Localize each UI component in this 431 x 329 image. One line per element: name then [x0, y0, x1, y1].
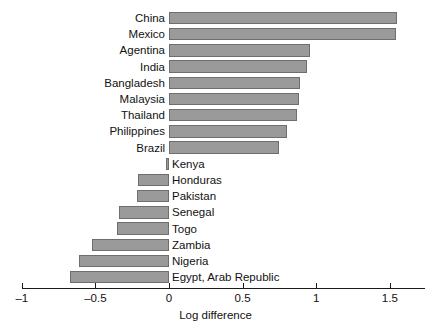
bar-row: Senegal [0, 204, 431, 220]
x-tick-mark [316, 283, 317, 288]
x-tick-mark [390, 283, 391, 288]
category-label: Bangladesh [104, 75, 165, 91]
bar[interactable] [169, 60, 307, 72]
bar-row: Thailand [0, 107, 431, 123]
bar[interactable] [166, 158, 169, 170]
category-label: Thailand [121, 107, 165, 123]
bar[interactable] [169, 109, 297, 121]
bar-row: Zambia [0, 237, 431, 253]
category-label: Brazil [136, 140, 165, 156]
bar[interactable] [169, 141, 279, 153]
bar[interactable] [70, 271, 169, 283]
bar[interactable] [138, 174, 169, 186]
bar-row: India [0, 59, 431, 75]
bar[interactable] [169, 12, 397, 24]
category-label: Pakistan [172, 188, 216, 204]
category-label: Mexico [129, 26, 165, 42]
x-tick-mark [243, 283, 244, 288]
x-tick-mark [169, 283, 170, 288]
bar-row: China [0, 10, 431, 26]
category-label: Togo [172, 221, 197, 237]
bar-row: Bangladesh [0, 75, 431, 91]
x-tick-mark [22, 283, 23, 288]
bar-row: Togo [0, 221, 431, 237]
bar[interactable] [169, 125, 287, 137]
category-label: Kenya [172, 156, 205, 172]
category-label: Agentina [120, 42, 165, 58]
x-tick-mark [95, 283, 96, 288]
category-label: India [140, 59, 165, 75]
category-label: Malaysia [120, 91, 165, 107]
category-label: Nigeria [172, 253, 208, 269]
x-tick-label: –0.5 [84, 292, 106, 304]
bar[interactable] [169, 28, 396, 40]
x-tick-label: 1 [313, 292, 319, 304]
category-label: Zambia [172, 237, 210, 253]
bar-row: Brazil [0, 140, 431, 156]
category-label: Egypt, Arab Republic [172, 269, 279, 285]
bar-row: Mexico [0, 26, 431, 42]
category-label: Senegal [172, 204, 214, 220]
plot-area: ChinaMexicoAgentinaIndiaBangladeshMalays… [0, 0, 431, 283]
category-label: China [135, 10, 165, 26]
bar[interactable] [92, 239, 169, 251]
bar-row: Agentina [0, 42, 431, 58]
bar-row: Philippines [0, 123, 431, 139]
bar-row: Malaysia [0, 91, 431, 107]
x-axis-label: Log difference [0, 309, 431, 321]
bar[interactable] [169, 93, 299, 105]
x-tick-label: 0 [166, 292, 172, 304]
x-tick-label: 0.5 [235, 292, 251, 304]
bar[interactable] [169, 77, 300, 89]
x-tick-label: –1 [15, 292, 28, 304]
log-difference-bar-chart: ChinaMexicoAgentinaIndiaBangladeshMalays… [0, 0, 431, 329]
category-label: Philippines [109, 123, 165, 139]
bar-row: Kenya [0, 156, 431, 172]
bar[interactable] [137, 190, 169, 202]
bar-row: Nigeria [0, 253, 431, 269]
category-label: Honduras [172, 172, 222, 188]
bar[interactable] [117, 222, 169, 234]
x-axis-line [22, 288, 425, 289]
x-tick-label: 1.5 [382, 292, 398, 304]
bar[interactable] [169, 44, 310, 56]
bar-row: Honduras [0, 172, 431, 188]
bar[interactable] [79, 255, 169, 267]
bar[interactable] [119, 206, 169, 218]
bar-row: Pakistan [0, 188, 431, 204]
bar-row: Egypt, Arab Republic [0, 269, 431, 285]
